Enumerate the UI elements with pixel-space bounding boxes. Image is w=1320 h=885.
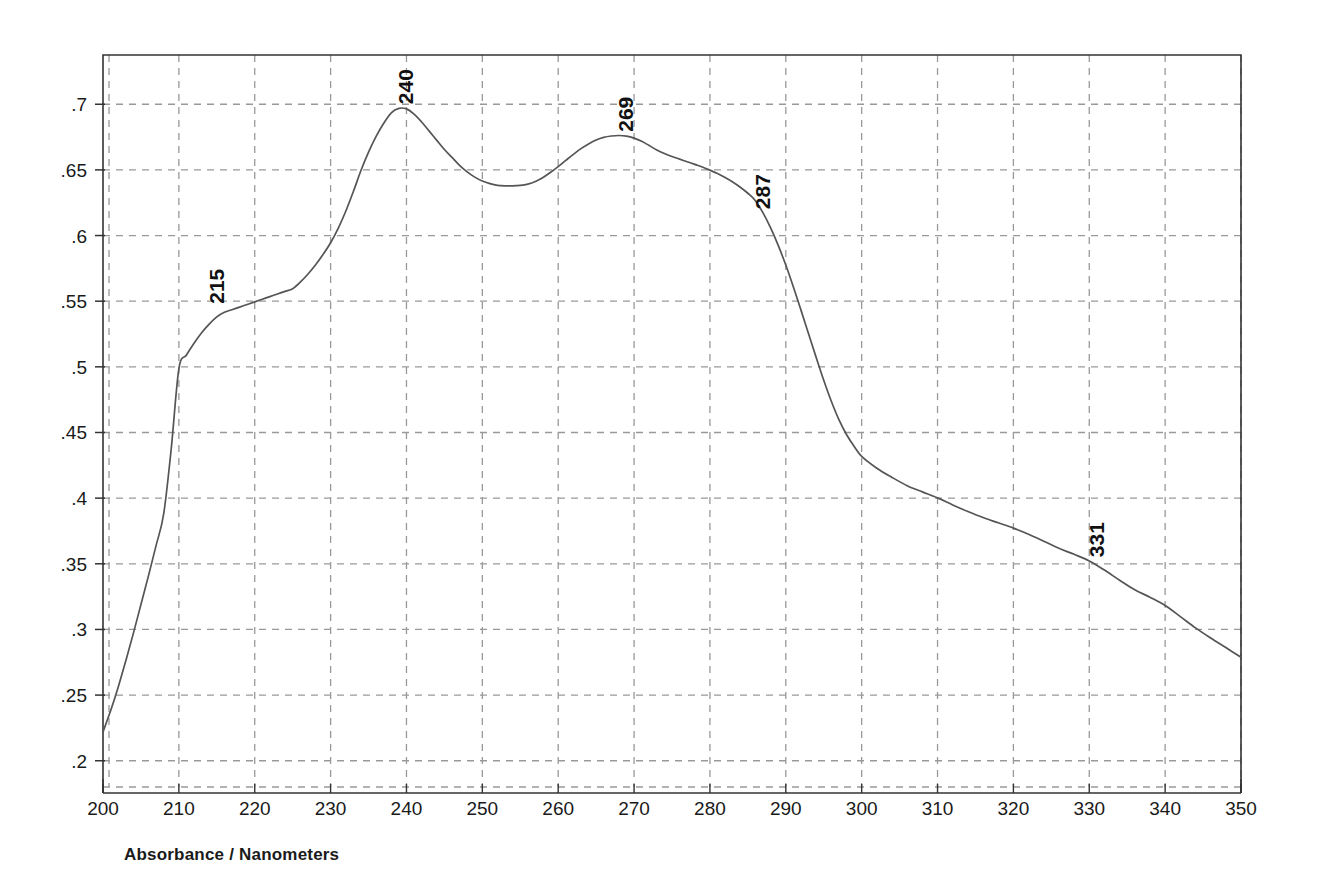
y-tick-label: .45 bbox=[61, 422, 87, 443]
peak-label-331: 331 bbox=[1085, 522, 1108, 557]
x-tick-label: 340 bbox=[1149, 798, 1181, 819]
x-tick-label: 280 bbox=[694, 798, 726, 819]
y-tick-label: .55 bbox=[61, 291, 87, 312]
y-tick-label: .6 bbox=[71, 226, 87, 247]
x-axis-ticks bbox=[103, 779, 1241, 793]
x-tick-label: 320 bbox=[998, 798, 1030, 819]
peak-label-269: 269 bbox=[614, 97, 637, 132]
y-tick-label: .5 bbox=[71, 357, 87, 378]
spectrum-chart: 2002102202302402502602702802903003103203… bbox=[0, 0, 1320, 885]
peak-label-287: 287 bbox=[751, 174, 774, 209]
x-tick-label: 300 bbox=[846, 798, 878, 819]
horizontal-gridlines bbox=[103, 104, 1241, 787]
x-tick-label: 330 bbox=[1073, 798, 1105, 819]
y-tick-label: .65 bbox=[61, 160, 87, 181]
figure-caption: Absorbance / Nanometers bbox=[124, 845, 339, 865]
x-tick-label: 290 bbox=[770, 798, 802, 819]
y-axis-tick-labels: .2.25.3.35.4.45.5.55.6.65.7 bbox=[61, 94, 88, 772]
plot-frame bbox=[103, 55, 1241, 793]
x-tick-label: 310 bbox=[922, 798, 954, 819]
y-tick-label: .35 bbox=[61, 554, 87, 575]
peak-annotations: 215240269287331 bbox=[205, 69, 1108, 557]
y-tick-label: .25 bbox=[61, 685, 87, 706]
x-tick-label: 230 bbox=[315, 798, 347, 819]
x-tick-label: 200 bbox=[87, 798, 119, 819]
x-tick-label: 220 bbox=[239, 798, 271, 819]
x-tick-label: 270 bbox=[618, 798, 650, 819]
x-tick-label: 260 bbox=[542, 798, 574, 819]
absorbance-curve bbox=[103, 108, 1241, 732]
curve-path bbox=[103, 108, 1241, 732]
x-tick-label: 250 bbox=[466, 798, 498, 819]
y-tick-label: .4 bbox=[71, 488, 87, 509]
absorbance-spectrum-figure: 2002102202302402502602702802903003103203… bbox=[0, 0, 1320, 885]
y-tick-label: .3 bbox=[71, 619, 87, 640]
peak-label-215: 215 bbox=[205, 268, 228, 303]
x-tick-label: 240 bbox=[391, 798, 423, 819]
y-tick-label: .2 bbox=[71, 751, 87, 772]
vertical-gridlines bbox=[109, 55, 1241, 787]
x-tick-label: 210 bbox=[163, 798, 195, 819]
peak-label-240: 240 bbox=[394, 69, 417, 104]
x-axis-tick-labels: 2002102202302402502602702802903003103203… bbox=[87, 798, 1257, 819]
y-tick-label: .7 bbox=[71, 94, 87, 115]
x-tick-label: 350 bbox=[1225, 798, 1257, 819]
frame-path bbox=[103, 55, 1241, 793]
